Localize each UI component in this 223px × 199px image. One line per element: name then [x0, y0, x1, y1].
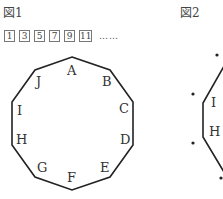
dot-marker [191, 92, 194, 95]
vertex-label-h: H [16, 132, 27, 147]
vertex-label-e: E [100, 160, 110, 175]
vertex-label-j: J [34, 74, 41, 89]
vertex-label-c: C [119, 101, 129, 116]
dot-marker [219, 176, 222, 179]
vertex-label-i: I [17, 103, 22, 118]
figure2-vertex-label-i: I [211, 95, 216, 110]
figure2-vertex-label-h: H [209, 124, 220, 139]
dot-marker [191, 141, 194, 144]
vertex-label-f: F [67, 170, 76, 185]
vertex-label-d: D [120, 132, 130, 147]
figure2-partial-polygon [203, 66, 223, 172]
vertex-label-a: A [66, 63, 77, 78]
dot-marker [215, 53, 218, 56]
vertex-label-g: G [37, 160, 47, 175]
vertex-label-b: B [102, 74, 112, 89]
diagram-canvas: A B C D E F G H I J I H [0, 0, 223, 199]
